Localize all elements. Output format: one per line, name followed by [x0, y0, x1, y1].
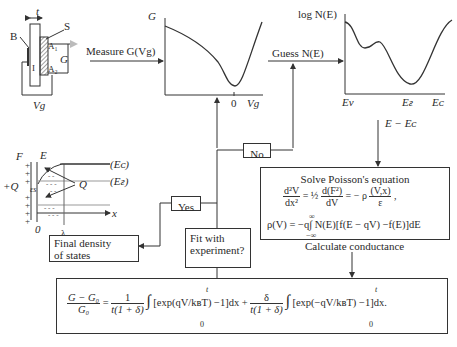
lhs-den: G₀ [67, 304, 100, 315]
measure-label: Measure G(Vg) [86, 45, 155, 57]
final-box-line2: of states [54, 249, 134, 261]
p-num2: d(F²) [321, 185, 343, 197]
fit-box-line1: Fit with [190, 232, 246, 244]
label-t: t [36, 5, 39, 17]
svg-text:+: + [25, 216, 30, 226]
label-x: x [112, 207, 117, 219]
label-A1: A₁ [48, 40, 58, 52]
p-half: = ½ [303, 190, 319, 201]
label-A2: A₂ [48, 63, 58, 75]
p-mid: = − ρ [346, 190, 367, 201]
label-epsilon: εs [30, 184, 36, 196]
rho-equation: ρ(V) = −q∫ N(E)[f(E − qV) −f(E)]dE [267, 219, 421, 231]
label-G: G [60, 53, 68, 65]
integral-1: ∫ [146, 292, 150, 309]
svg-text:- -: - - [50, 187, 57, 195]
fit-experiment-box: Fit with experiment? [185, 228, 251, 268]
g-plot [90, 18, 263, 148]
no-label: No [250, 148, 263, 160]
svg-text:- - -: - - - [48, 211, 59, 219]
p-num3: (V,x) [369, 185, 391, 197]
yes-box: Yes [171, 196, 201, 211]
svg-text:- -: - - [48, 172, 55, 180]
label-S: S [64, 20, 70, 32]
conductance-box: G − G₀G₀ = 1t(1 + δ) ∫ [exp(qV/kʙT) −1]d… [56, 278, 448, 334]
p-den1: dx² [283, 197, 300, 208]
n-plot-ylabel: log N(E) [298, 8, 337, 20]
label-plusQ: +Q [3, 180, 18, 192]
term1: [exp(qV/kʙT) −1]dx + [153, 297, 247, 308]
guess-label: Guess N(E) [272, 47, 324, 59]
label-E: E [40, 149, 47, 161]
g-plot-xlabel: Vg [247, 97, 259, 109]
int2-upper: t [375, 284, 377, 296]
label-I: I [32, 62, 35, 74]
p-end: , [394, 190, 397, 201]
p-num1: d²V [283, 185, 300, 197]
band-sketch [31, 162, 110, 225]
band-dots: - - - - - - - - - - - - - [44, 172, 59, 219]
calculate-conductance-label: Calculate conductance [305, 240, 404, 252]
g-plot-ylabel: G [148, 10, 156, 22]
label-Vg: Vg [33, 99, 45, 111]
label-Q: Q [79, 178, 87, 190]
int1-lower: 0 [200, 319, 204, 331]
p-den2: dV [321, 197, 343, 208]
poisson-box: Solve Poisson's equation d²Vdx² = ½ d(F²… [260, 167, 450, 240]
yes-label: Yes [178, 201, 194, 213]
fit-box-line2: experiment? [190, 244, 246, 256]
n-plot-xtick-EV: Eᴠ [342, 96, 353, 108]
label-EF-band: (Eғ) [110, 175, 128, 187]
n-plot [268, 14, 452, 166]
f1-num: 1 [111, 292, 143, 304]
integral-2: ∫ [285, 292, 289, 309]
int1-upper: t [206, 284, 208, 296]
f2-num: δ [250, 292, 282, 304]
label-EC-band: (Eᴄ) [110, 158, 129, 170]
term2: [exp(−qV/kʙT) −1]dx. [292, 297, 386, 308]
poisson-title: Solve Poisson's equation [261, 173, 449, 185]
int2-lower: 0 [369, 319, 373, 331]
f1-den: t(1 + δ) [111, 304, 143, 315]
label-zero: 0 [35, 223, 41, 235]
n-plot-xtick-EC: Eᴄ [432, 96, 444, 108]
label-B: B [10, 30, 17, 42]
label-F: F [16, 150, 23, 162]
n-plot-axis-note: E − Eᴄ [385, 117, 416, 129]
poisson-eq1: d²Vdx² = ½ d(F²)dV = − ρ (V,x)ε , [283, 185, 396, 208]
n-plot-xtick-EF: Eғ [402, 96, 413, 108]
lhs-num: G − G₀ [67, 292, 100, 304]
f2-den: t(1 + δ) [250, 304, 282, 315]
final-density-box: Final density of states [49, 235, 139, 262]
p-den3: ε [369, 197, 391, 208]
no-box: No [243, 143, 271, 158]
final-box-line1: Final density [54, 237, 134, 249]
conductance-equation: G − G₀G₀ = 1t(1 + δ) ∫ [exp(qV/kʙT) −1]d… [67, 292, 387, 315]
g-plot-xtick-zero: 0 [231, 97, 237, 109]
